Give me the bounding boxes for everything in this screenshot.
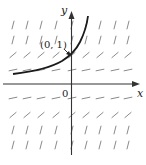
slope-segment [23, 69, 31, 71]
origin-label: 0 [62, 88, 68, 99]
slope-segment [112, 112, 118, 117]
slope-segment [97, 112, 103, 117]
slope-segment [38, 52, 44, 57]
slope-segment [85, 36, 87, 44]
slope-segments [9, 21, 132, 149]
slope-segment [125, 112, 131, 117]
slope-segment [99, 36, 101, 44]
slope-segment [114, 21, 116, 29]
slope-segment [55, 21, 57, 29]
slope-segment [83, 52, 89, 57]
slope-segment [53, 52, 59, 57]
point-label: (0, 1) [40, 39, 67, 50]
slope-segment [12, 21, 14, 29]
slope-segment [97, 52, 103, 57]
slope-field-diagram: y x 0 (0, 1) [0, 0, 146, 165]
slope-segment [53, 112, 59, 117]
slope-segment [127, 21, 129, 29]
slope-segment [12, 141, 14, 149]
slope-segment [85, 126, 87, 134]
slope-segment [37, 97, 45, 99]
slope-segment [26, 21, 28, 29]
slope-segment [127, 36, 129, 44]
slope-segment [52, 69, 60, 71]
slope-segment [23, 97, 31, 99]
slope-segment [55, 141, 57, 149]
slope-segment [10, 52, 16, 57]
slope-segment [40, 126, 42, 134]
slope-segment [112, 52, 118, 57]
slope-segment [99, 21, 101, 29]
slope-segment [55, 126, 57, 134]
slope-segment [96, 97, 104, 99]
slope-segment [40, 141, 42, 149]
slope-segment [99, 126, 101, 134]
slope-segment [10, 112, 16, 117]
y-axis-arrow-icon [69, 11, 75, 19]
slope-segment [114, 141, 116, 149]
slope-segment [26, 36, 28, 44]
slope-segment [52, 97, 60, 99]
slope-segment [99, 141, 101, 149]
slope-segment [125, 52, 131, 57]
slope-segment [26, 126, 28, 134]
slope-segment [127, 126, 129, 134]
slope-segment [83, 112, 89, 117]
slope-segment [9, 69, 17, 71]
slope-segment [127, 141, 129, 149]
slope-segment [24, 52, 30, 57]
slope-segment [12, 36, 14, 44]
slope-segment [111, 97, 119, 99]
slope-segment [82, 97, 90, 99]
slope-segment [124, 97, 132, 99]
slope-segment [82, 69, 90, 71]
slope-segment [114, 36, 116, 44]
slope-segment [26, 141, 28, 149]
slope-segment [114, 126, 116, 134]
slope-segment [9, 97, 17, 99]
slope-segment [38, 112, 44, 117]
slope-segment [124, 69, 132, 71]
slope-segment [12, 126, 14, 134]
slope-segment [40, 21, 42, 29]
slope-segment [24, 112, 30, 117]
slope-segment [111, 69, 119, 71]
y-axis-label: y [60, 4, 68, 17]
slope-segment [85, 141, 87, 149]
x-axis-label: x [137, 87, 144, 100]
slope-segment [96, 69, 104, 71]
